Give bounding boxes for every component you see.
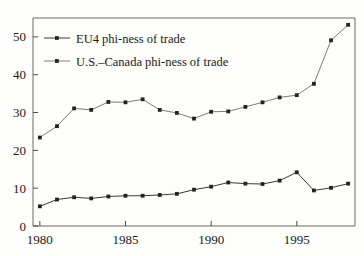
data-point-marker — [158, 193, 162, 197]
data-point-marker — [209, 185, 213, 189]
x-tick-label-1980: 1980 — [27, 232, 53, 247]
data-point-marker — [261, 100, 265, 104]
data-point-marker — [295, 170, 299, 174]
data-point-marker — [89, 196, 93, 200]
data-point-marker — [72, 195, 76, 199]
data-point-marker — [329, 38, 333, 42]
data-point-marker — [226, 110, 230, 114]
data-point-marker — [55, 124, 59, 128]
data-point-marker — [124, 194, 128, 198]
data-point-marker — [141, 194, 145, 198]
line-chart: 01020304050 1980198519901995 EU4 phi-nes… — [0, 0, 364, 256]
data-point-marker — [106, 195, 110, 199]
data-point-marker — [312, 82, 316, 86]
data-point-marker — [38, 204, 42, 208]
data-point-marker — [346, 182, 350, 186]
data-point-marker — [192, 117, 196, 121]
data-point-marker — [192, 188, 196, 192]
data-point-marker — [38, 136, 42, 140]
y-tick-label-20: 20 — [13, 143, 26, 158]
data-point-marker — [72, 106, 76, 110]
data-point-marker — [106, 100, 110, 104]
data-point-marker — [329, 186, 333, 190]
legend-label: U.S.–Canada phi-ness of trade — [76, 55, 229, 69]
data-point-marker — [141, 97, 145, 101]
data-point-marker — [295, 93, 299, 97]
legend-marker — [55, 59, 59, 63]
data-point-marker — [312, 189, 316, 193]
x-tick-label-1995: 1995 — [284, 232, 310, 247]
y-tick-label-50: 50 — [13, 29, 26, 44]
data-point-marker — [175, 111, 179, 115]
data-point-marker — [278, 96, 282, 100]
x-tick-label-1990: 1990 — [198, 232, 224, 247]
data-point-marker — [89, 108, 93, 112]
data-point-marker — [346, 23, 350, 27]
data-point-marker — [243, 105, 247, 109]
data-point-marker — [124, 100, 128, 104]
data-point-marker — [278, 179, 282, 183]
data-point-marker — [226, 181, 230, 185]
y-tick-label-30: 30 — [13, 105, 26, 120]
legend-label: EU4 phi-ness of trade — [76, 32, 186, 46]
data-point-marker — [158, 108, 162, 112]
data-point-marker — [243, 182, 247, 186]
y-tick-label-40: 40 — [13, 67, 26, 82]
data-point-marker — [209, 110, 213, 114]
y-tick-label-10: 10 — [13, 181, 26, 196]
legend-marker — [55, 36, 59, 40]
x-tick-label-1985: 1985 — [112, 232, 138, 247]
data-point-marker — [261, 182, 265, 186]
y-tick-label-0: 0 — [20, 219, 27, 234]
data-point-marker — [175, 192, 179, 196]
chart-container: 01020304050 1980198519901995 EU4 phi-nes… — [0, 0, 364, 256]
data-point-marker — [55, 198, 59, 202]
